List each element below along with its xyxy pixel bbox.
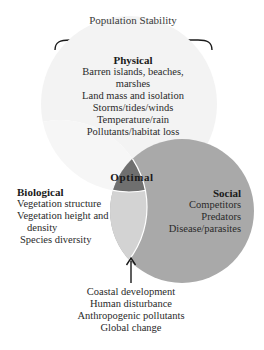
social-item: Competitors xyxy=(169,199,241,211)
anthropogenic-item: Global change xyxy=(77,322,184,334)
social-heading: Social xyxy=(169,187,241,199)
biological-heading: Biological xyxy=(17,186,109,198)
diagram-title: Population Stability xyxy=(89,14,177,26)
biological-item: density xyxy=(17,222,109,234)
anthropogenic-block: Coastal development Human disturbance An… xyxy=(77,286,184,334)
biological-block: Biological Vegetation structure Vegetati… xyxy=(17,186,109,246)
social-item: Predators xyxy=(169,211,241,223)
physical-block: Physical Barren islands, beaches, marshe… xyxy=(82,54,184,138)
anthropogenic-item: Anthropogenic pollutants xyxy=(77,310,184,322)
anthropogenic-item: Human disturbance xyxy=(77,298,184,310)
physical-item: marshes xyxy=(82,78,184,90)
physical-item: Land mass and isolation xyxy=(82,90,184,102)
social-item: Disease/parasites xyxy=(169,223,241,235)
biological-item: Vegetation height and xyxy=(17,210,109,222)
optimal-label: Optimal xyxy=(110,171,153,183)
physical-item: Storms/tides/winds xyxy=(82,102,184,114)
physical-item: Barren islands, beaches, xyxy=(82,66,184,78)
venn-diagram: Population Stability Physical Barren isl… xyxy=(0,0,264,350)
biological-item: Vegetation structure xyxy=(17,198,109,210)
social-block: Social Competitors Predators Disease/par… xyxy=(169,187,241,235)
physical-heading: Physical xyxy=(82,54,184,66)
physical-item: Pollutants/habitat loss xyxy=(82,126,184,138)
biological-item: Species diversity xyxy=(17,234,109,246)
physical-item: Temperature/rain xyxy=(82,114,184,126)
anthropogenic-item: Coastal development xyxy=(77,286,184,298)
